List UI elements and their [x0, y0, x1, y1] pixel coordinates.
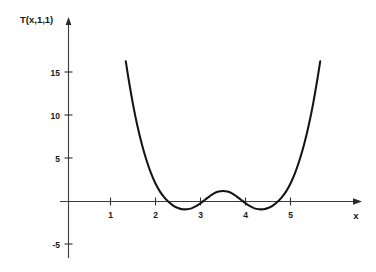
- x-axis-title: x: [353, 210, 359, 221]
- plot-svg: 15 10 5 -5 1 2 3 4 5 T(x,1,1) x: [0, 0, 376, 272]
- plot-figure: 15 10 5 -5 1 2 3 4 5 T(x,1,1) x: [0, 0, 376, 272]
- x-tick-label-1: 1: [108, 210, 113, 220]
- y-tick-label-minus5: -5: [52, 240, 60, 250]
- y-axis-title: T(x,1,1): [20, 14, 53, 25]
- x-tick-label-2: 2: [153, 210, 158, 220]
- x-tick-label-4: 4: [243, 210, 248, 220]
- y-tick-label-5: 5: [55, 154, 60, 164]
- x-tick-label-3: 3: [198, 210, 203, 220]
- y-tick-label-15: 15: [51, 68, 61, 78]
- y-tick-label-10: 10: [51, 111, 61, 121]
- x-tick-label-5: 5: [288, 210, 293, 220]
- plot-background: [0, 0, 376, 272]
